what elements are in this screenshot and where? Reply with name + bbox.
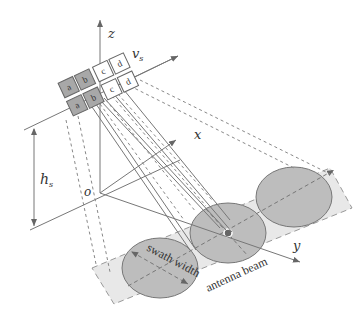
x-label: x [194, 127, 202, 142]
velocity-label: vs [132, 46, 143, 63]
origin-label: o [84, 185, 91, 199]
sar-geometry-diagram: a b c d a b c d z vs x y o hs swath widt… [0, 0, 357, 324]
height-label: hs [40, 171, 53, 189]
antenna-array: a b c d a b c d [58, 53, 138, 116]
z-label: z [107, 26, 115, 41]
footprint-ellipse-3 [256, 167, 332, 227]
y-label: y [292, 238, 301, 253]
x-axis [100, 140, 176, 193]
